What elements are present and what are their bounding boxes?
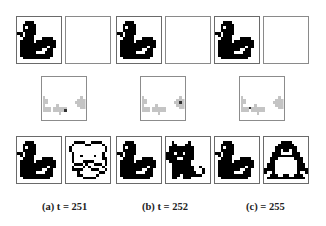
swan-icon	[117, 17, 161, 63]
penguin-image-bottom-c	[263, 136, 309, 184]
swan-icon	[117, 137, 161, 183]
cat-image-bottom-b	[165, 136, 211, 184]
swan-icon	[215, 137, 259, 183]
cat-icon	[166, 137, 210, 183]
swan-image-top-b	[116, 16, 162, 64]
swan-icon	[17, 17, 61, 63]
blank-image-top-c	[263, 16, 309, 64]
swan-image-bottom-b	[116, 136, 162, 184]
blank-image-top-b	[165, 16, 211, 64]
gray-reconstruction-b	[140, 76, 186, 121]
gray-arrow-icon	[240, 77, 284, 120]
dog-icon	[66, 137, 110, 183]
swan-icon	[17, 137, 61, 183]
gray-reconstruction-c	[239, 76, 285, 121]
swan-image-bottom-c	[214, 136, 260, 184]
penguin-icon	[264, 137, 308, 183]
gray-arrow-icon	[42, 77, 86, 120]
blank-image-top-a	[65, 16, 111, 64]
gray-arrow-icon	[141, 77, 185, 120]
caption-b: (b) t = 252	[142, 201, 188, 212]
caption-a: (a) t = 251	[42, 201, 87, 212]
swan-icon	[215, 17, 259, 63]
caption-c: (c) = 255	[246, 201, 285, 212]
swan-image-top-c	[214, 16, 260, 64]
swan-image-bottom-a	[16, 136, 62, 184]
swan-image-top-a	[16, 16, 62, 64]
dog-image-bottom-a	[65, 136, 111, 184]
gray-reconstruction-a	[41, 76, 87, 121]
